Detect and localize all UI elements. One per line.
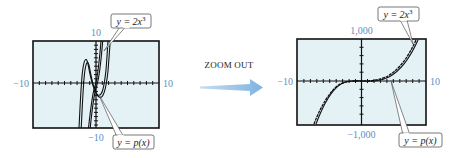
left-ymax-label: 10 xyxy=(91,27,101,38)
figure: 10 −10 −10 10 y = 2x3 y = p(x) ZOOM OUT xyxy=(0,0,450,158)
left-callout-poly-text: y = p(x) xyxy=(116,137,150,149)
zoom-out-arrow: ZOOM OUT xyxy=(200,60,263,96)
right-ymax-label: 1,000 xyxy=(350,25,373,36)
svg-text:y = 2x3: y = 2x3 xyxy=(115,15,146,27)
right-xmax-label: 10 xyxy=(430,76,440,87)
left-callout-cubic-sup: 3 xyxy=(142,15,146,23)
right-xmin-label: −10 xyxy=(277,76,293,87)
right-callout-cubic-text: y = 2x xyxy=(382,9,409,20)
left-xmax-label: 10 xyxy=(163,78,173,89)
left-ymin-label: −10 xyxy=(88,132,104,143)
svg-text:y = 2x3: y = 2x3 xyxy=(382,8,413,20)
left-graph-panel: 10 −10 −10 10 y = 2x3 y = p(x) xyxy=(13,14,173,149)
right-callout-poly-text: y = p(x) xyxy=(403,135,437,147)
right-graph-panel: 1,000 −1,000 −10 10 y = 2x3 y = p(x) xyxy=(277,7,442,147)
zoom-out-label: ZOOM OUT xyxy=(205,60,254,70)
left-callout-cubic-text: y = 2x xyxy=(115,16,142,27)
right-ymin-label: −1,000 xyxy=(347,129,375,140)
left-xmin-label: −10 xyxy=(13,78,29,89)
right-callout-cubic-sup: 3 xyxy=(409,8,413,16)
